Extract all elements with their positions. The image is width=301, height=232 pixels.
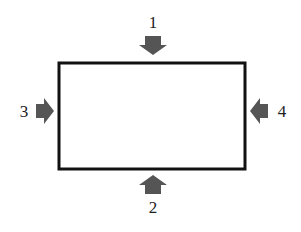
arrow-left-icon [250, 98, 268, 124]
arrow-1-group: 1 [139, 13, 167, 55]
arrow-2-label: 2 [149, 198, 158, 217]
arrow-4-group: 4 [250, 98, 287, 124]
arrow-1-label: 1 [149, 13, 158, 32]
arrow-3-label: 3 [20, 102, 29, 121]
rectangle [59, 63, 245, 169]
arrow-down-icon [139, 36, 167, 55]
diagram-canvas: 1 2 3 4 [0, 0, 301, 232]
arrow-right-icon [36, 98, 54, 124]
arrow-up-icon [139, 175, 167, 194]
arrow-2-group: 2 [139, 175, 167, 217]
arrow-3-group: 3 [20, 98, 54, 124]
arrow-4-label: 4 [278, 102, 287, 121]
